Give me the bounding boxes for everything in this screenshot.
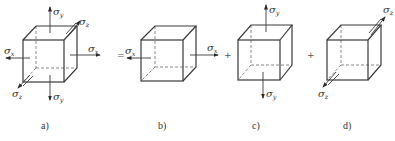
svg-text:σy: σy xyxy=(269,4,280,17)
stress-labels-b: σx σx xyxy=(125,42,218,58)
svg-text:σx: σx xyxy=(4,45,15,58)
svg-text:σz: σz xyxy=(12,88,23,101)
svg-text:σz: σz xyxy=(318,88,329,101)
svg-text:σz: σz xyxy=(383,4,394,17)
equals-operator: = xyxy=(117,50,125,60)
cube-c xyxy=(238,25,292,80)
stress-arrows-d xyxy=(323,17,385,87)
svg-text:σy: σy xyxy=(266,88,277,101)
cube-b xyxy=(141,26,196,81)
plus-operator-1: + xyxy=(224,50,232,60)
svg-text:σx: σx xyxy=(207,42,218,55)
panel-label-b: b) xyxy=(158,120,166,132)
svg-text:σz: σz xyxy=(79,16,90,29)
svg-text:σx: σx xyxy=(88,43,99,56)
svg-text:σx: σx xyxy=(125,45,136,58)
panel-label-d: d) xyxy=(343,120,351,132)
stress-labels-d: σz σz xyxy=(318,4,394,101)
stress-arrows-c xyxy=(263,5,266,98)
stress-labels-c: σy σy xyxy=(266,4,280,101)
svg-text:σy: σy xyxy=(53,6,64,19)
panel-label-c: c) xyxy=(252,120,260,132)
panel-label-a: a) xyxy=(41,120,49,132)
plus-operator-2: + xyxy=(307,50,315,60)
stress-superposition-diagram: σy σy σx σx σz σz a) = σx σx b) + xyxy=(0,0,395,141)
svg-text:σy: σy xyxy=(53,91,64,104)
